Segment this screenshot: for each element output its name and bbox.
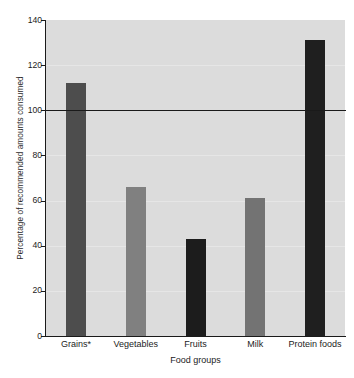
gridline [46, 65, 345, 66]
bar [305, 40, 325, 336]
bar [245, 198, 265, 336]
reference-line-100 [45, 110, 346, 111]
plot-area [46, 20, 345, 336]
x-tick-label: Grains* [46, 339, 106, 350]
bar-chart-figure: Percentage of recommended amounts consum… [0, 0, 354, 378]
y-tick-label: 100 [20, 106, 42, 115]
x-axis-line [45, 336, 346, 337]
y-tick-label: 140 [20, 16, 42, 25]
x-tick-label: Milk [225, 339, 285, 350]
x-axis-title: Food groups [46, 355, 345, 366]
y-tick-label: 40 [20, 241, 42, 250]
y-tick-label: 120 [20, 61, 42, 70]
gridline [46, 155, 345, 156]
x-tick-label: Protein foods [285, 339, 345, 350]
bar [186, 239, 206, 336]
gridline [46, 201, 345, 202]
bar [66, 83, 86, 336]
y-tick-label: 80 [20, 151, 42, 160]
x-tick-label: Fruits [166, 339, 226, 350]
y-tick-label: 20 [20, 286, 42, 295]
y-tick-label: 60 [20, 196, 42, 205]
y-tick-label: 0 [20, 332, 42, 341]
bar [126, 187, 146, 336]
y-axis-line [45, 20, 46, 337]
y-axis-tick-labels: 020406080100120140 [18, 0, 42, 378]
x-tick-label: Vegetables [106, 339, 166, 350]
